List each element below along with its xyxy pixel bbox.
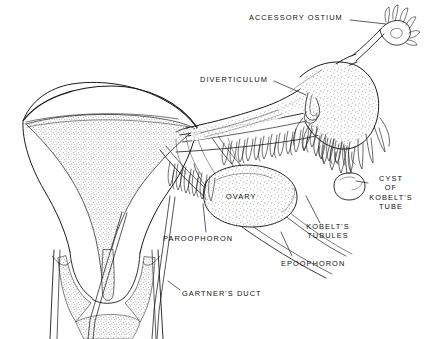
fallopian-tube	[176, 54, 379, 149]
leader-kobelts-tubules	[306, 196, 320, 223]
label-epoophoron: EPOOPHORON	[281, 259, 345, 268]
label-gartners-duct: GARTNER'S DUCT	[182, 289, 262, 298]
label-kobelts-tubules: KOBELT'S TUBULES	[297, 222, 359, 241]
label-paroophoron: PAROOPHORON	[163, 234, 233, 243]
cyst-of-kobelts-tube	[334, 146, 365, 200]
leader-lines	[168, 20, 386, 290]
leader-paroophoron	[203, 204, 206, 232]
leader-accessory-ostium	[350, 20, 386, 24]
label-diverticulum: DIVERTICULUM	[200, 75, 268, 84]
leader-gartners-duct	[168, 281, 180, 290]
label-cyst-of-kobelts-tube: CYST OF KOBELT'S TUBE	[363, 174, 419, 212]
leader-epoophoron	[281, 232, 292, 256]
figure-canvas: ACCESSORY OSTIUM DIVERTICULUM CYST OF KO…	[0, 0, 424, 339]
label-accessory-ostium: ACCESSORY OSTIUM	[249, 13, 343, 22]
label-ovary: OVARY	[226, 192, 256, 201]
accessory-ostium	[352, 5, 420, 61]
gartners-duct-right	[152, 196, 175, 339]
